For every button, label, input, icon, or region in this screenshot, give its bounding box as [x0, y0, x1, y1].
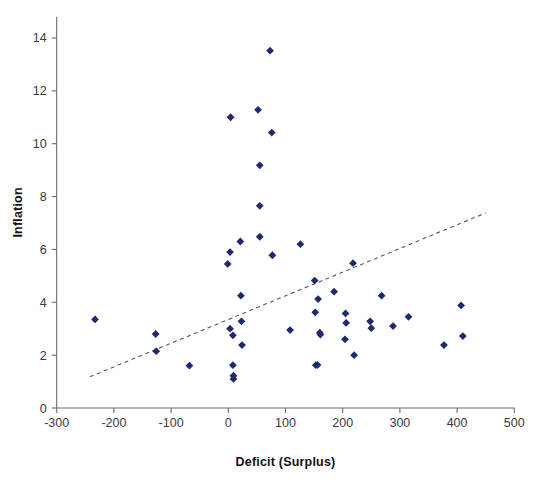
data-point — [268, 251, 276, 259]
x-tick-label: 100 — [275, 416, 296, 430]
data-point — [227, 113, 235, 121]
data-point — [342, 319, 350, 327]
y-tick-label: 14 — [33, 31, 47, 45]
y-tick-label: 6 — [40, 243, 47, 257]
data-point — [266, 47, 274, 55]
data-point — [350, 351, 358, 359]
data-point — [367, 324, 375, 332]
data-point — [457, 302, 465, 310]
data-point — [405, 313, 413, 321]
data-point — [226, 248, 234, 256]
data-point — [237, 292, 245, 300]
data-point — [236, 238, 244, 246]
data-point — [341, 335, 349, 343]
data-point — [254, 106, 262, 114]
plot-area: 02468101214 -300-200-1000100200300400500… — [0, 0, 539, 484]
data-point — [314, 295, 322, 303]
data-point — [91, 316, 99, 324]
data-point — [389, 322, 397, 330]
data-point — [226, 325, 234, 333]
x-tick-label: 500 — [504, 416, 525, 430]
data-point — [296, 240, 304, 248]
y-tick-label: 12 — [33, 84, 47, 98]
x-axis-title: Deficit (Surplus) — [236, 455, 336, 469]
data-point — [256, 161, 264, 169]
data-point — [366, 317, 374, 325]
data-point — [268, 129, 276, 137]
y-tick-label: 10 — [33, 137, 47, 151]
data-point — [256, 202, 264, 210]
data-point — [349, 259, 357, 267]
x-tick-label: 300 — [389, 416, 410, 430]
data-point — [311, 277, 319, 285]
y-axis-ticks: 02468101214 — [33, 31, 57, 415]
y-tick-label: 2 — [40, 349, 47, 363]
data-point — [286, 326, 294, 334]
data-point — [238, 317, 246, 325]
x-tick-label: -100 — [159, 416, 184, 430]
data-point — [459, 332, 467, 340]
data-point — [256, 233, 264, 241]
data-points — [91, 47, 467, 383]
data-point — [440, 341, 448, 349]
scatter-chart: 02468101214 -300-200-1000100200300400500… — [0, 0, 539, 484]
data-point — [238, 341, 246, 349]
x-tick-label: 400 — [447, 416, 468, 430]
y-axis-title: Inflation — [11, 187, 25, 237]
data-point — [186, 362, 194, 370]
data-point — [330, 288, 338, 296]
y-tick-label: 4 — [40, 296, 47, 310]
x-tick-label: 200 — [332, 416, 353, 430]
x-axis-ticks: -300-200-1000100200300400500 — [44, 408, 525, 430]
x-tick-label: -300 — [44, 416, 69, 430]
data-point — [152, 330, 160, 338]
data-point — [229, 361, 237, 369]
data-point — [342, 309, 350, 317]
data-point — [152, 347, 160, 355]
y-tick-label: 8 — [40, 190, 47, 204]
data-point — [229, 331, 237, 339]
data-point — [378, 292, 386, 300]
y-tick-label: 0 — [40, 402, 47, 416]
x-tick-label: -200 — [101, 416, 126, 430]
x-tick-label: 0 — [225, 416, 232, 430]
data-point — [224, 260, 232, 268]
data-point — [311, 308, 319, 316]
trend-line — [90, 213, 486, 377]
